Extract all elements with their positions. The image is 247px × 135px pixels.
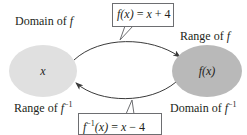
forward-arrow xyxy=(74,42,180,60)
forward-lhs: f(x) xyxy=(117,7,134,21)
domain-element-x: x xyxy=(9,64,77,78)
inverse-function-box: f−1(x) = x − 4 xyxy=(78,113,162,135)
range-of-f-label: Range of f xyxy=(180,29,230,43)
forward-callout-tail xyxy=(120,26,133,40)
forward-function-box: f(x) = x + 4 xyxy=(112,3,174,27)
range-of-f-inverse-label: Range of f−1 xyxy=(14,98,73,115)
range-element-fx: f(x) xyxy=(172,64,242,78)
inverse-arrow xyxy=(76,82,176,99)
domain-of-f-label: Domain of f xyxy=(15,14,73,28)
domain-of-f-inverse-label: Domain of f−1 xyxy=(170,98,237,115)
inverse-callout-tail xyxy=(126,100,134,114)
